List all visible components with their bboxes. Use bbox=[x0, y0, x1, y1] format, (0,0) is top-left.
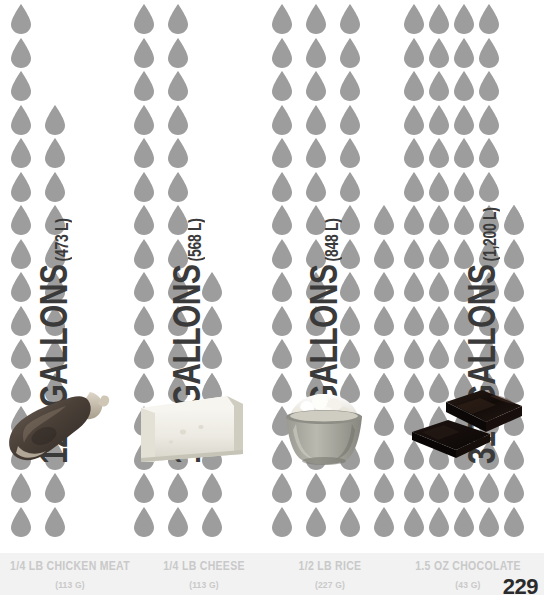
water-droplet bbox=[201, 507, 223, 537]
water-droplet bbox=[339, 4, 361, 34]
water-droplet bbox=[453, 172, 475, 202]
caption-band: 1/4 LB CHICKEN MEAT (113 G) 1/4 LB CHEES… bbox=[0, 553, 544, 595]
water-droplet bbox=[428, 172, 450, 202]
water-droplet bbox=[10, 38, 32, 68]
water-droplet bbox=[167, 507, 189, 537]
liters-value-rice: (848 L) bbox=[322, 218, 342, 261]
water-droplet bbox=[133, 172, 155, 202]
water-droplet bbox=[453, 4, 475, 34]
water-droplet bbox=[403, 306, 425, 336]
water-droplet bbox=[339, 138, 361, 168]
water-droplet bbox=[339, 71, 361, 101]
water-droplet bbox=[133, 272, 155, 302]
water-droplet bbox=[503, 272, 525, 302]
water-droplet bbox=[44, 473, 66, 503]
caption-cheese: 1/4 LB CHEESE (113 G) bbox=[140, 553, 268, 591]
water-droplet bbox=[271, 272, 293, 302]
water-droplet bbox=[305, 507, 327, 537]
water-droplet bbox=[10, 205, 32, 235]
water-droplet bbox=[44, 138, 66, 168]
caption-grams-chicken: (113 G) bbox=[0, 577, 140, 592]
water-droplet bbox=[403, 272, 425, 302]
chart-column-chicken: 125 GALLONS (473 L) bbox=[0, 0, 136, 470]
water-droplet bbox=[428, 339, 450, 369]
water-droplet bbox=[503, 507, 525, 537]
water-droplet bbox=[403, 38, 425, 68]
water-droplet bbox=[271, 507, 293, 537]
water-droplet bbox=[373, 440, 395, 470]
water-droplet bbox=[373, 339, 395, 369]
water-droplet bbox=[10, 4, 32, 34]
water-droplet bbox=[271, 4, 293, 34]
water-droplet bbox=[133, 138, 155, 168]
caption-name-chocolate: 1.5 OZ CHOCOLATE bbox=[392, 553, 544, 576]
water-droplet bbox=[133, 239, 155, 269]
water-droplet-partial bbox=[503, 205, 525, 218]
water-droplet bbox=[403, 71, 425, 101]
water-droplet bbox=[478, 172, 500, 202]
photo-chicken-drumstick bbox=[4, 380, 112, 470]
water-droplet bbox=[428, 507, 450, 537]
water-droplet bbox=[271, 38, 293, 68]
water-droplet bbox=[403, 172, 425, 202]
water-droplet bbox=[373, 272, 395, 302]
water-droplet bbox=[453, 71, 475, 101]
water-droplet bbox=[478, 507, 500, 537]
water-droplet bbox=[133, 4, 155, 34]
water-droplet bbox=[428, 239, 450, 269]
water-droplet bbox=[478, 38, 500, 68]
water-droplet bbox=[305, 105, 327, 135]
water-droplet bbox=[44, 507, 66, 537]
water-droplet bbox=[133, 205, 155, 235]
caption-grams-rice: (227 G) bbox=[268, 577, 392, 592]
water-droplet bbox=[10, 306, 32, 336]
water-droplet bbox=[305, 38, 327, 68]
water-droplet bbox=[428, 272, 450, 302]
water-droplet bbox=[453, 138, 475, 168]
water-droplet bbox=[339, 507, 361, 537]
water-droplet bbox=[271, 138, 293, 168]
water-droplet bbox=[305, 71, 327, 101]
water-droplet bbox=[271, 205, 293, 235]
water-droplet bbox=[271, 239, 293, 269]
water-droplet bbox=[271, 306, 293, 336]
water-droplet bbox=[478, 4, 500, 34]
page-number: 229 bbox=[503, 574, 538, 595]
water-droplet bbox=[271, 339, 293, 369]
water-droplet bbox=[428, 105, 450, 135]
water-droplet bbox=[10, 71, 32, 101]
water-droplet bbox=[167, 71, 189, 101]
photo-cheese-block bbox=[135, 380, 247, 470]
water-droplet bbox=[10, 473, 32, 503]
water-droplet bbox=[503, 306, 525, 336]
water-droplet bbox=[133, 507, 155, 537]
liters-value-cheese: (568 L) bbox=[185, 218, 205, 261]
water-droplet bbox=[167, 105, 189, 135]
water-droplet bbox=[10, 339, 32, 369]
water-droplet bbox=[167, 4, 189, 34]
water-droplet bbox=[10, 239, 32, 269]
water-droplet bbox=[10, 105, 32, 135]
water-droplet bbox=[403, 138, 425, 168]
photo-chocolate-squares bbox=[404, 380, 526, 470]
water-droplet bbox=[339, 38, 361, 68]
water-droplet bbox=[133, 339, 155, 369]
water-droplet bbox=[428, 4, 450, 34]
water-droplet bbox=[478, 473, 500, 503]
water-droplet bbox=[503, 339, 525, 369]
chart-column-cheese: 150 GALLONS (568 L) bbox=[131, 0, 273, 470]
water-droplet-partial bbox=[373, 373, 395, 386]
water-droplet bbox=[453, 38, 475, 68]
water-droplet bbox=[373, 473, 395, 503]
water-droplet bbox=[167, 38, 189, 68]
water-droplet bbox=[271, 172, 293, 202]
caption-name-chicken: 1/4 LB CHICKEN MEAT bbox=[0, 553, 140, 576]
water-droplet bbox=[44, 172, 66, 202]
water-droplet bbox=[305, 138, 327, 168]
water-footprint-infographic: 125 GALLONS (473 L) bbox=[0, 0, 544, 595]
water-droplet bbox=[403, 4, 425, 34]
water-droplet bbox=[305, 4, 327, 34]
water-droplet bbox=[44, 105, 66, 135]
water-droplet bbox=[271, 105, 293, 135]
water-droplet bbox=[403, 239, 425, 269]
